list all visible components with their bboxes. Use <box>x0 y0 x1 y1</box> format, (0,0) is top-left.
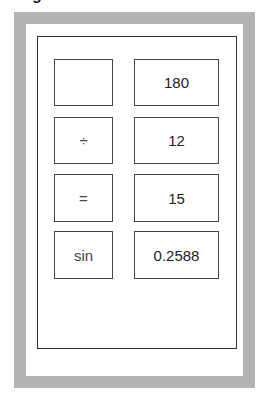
clipped-header-text: g <box>32 0 42 3</box>
value-cell-3[interactable]: 15 <box>134 174 219 222</box>
value-cell-2[interactable]: 12 <box>134 117 219 164</box>
operator-cell-sin[interactable]: sin <box>54 231 113 279</box>
value-cell-1[interactable]: 180 <box>134 59 219 106</box>
value-cell-4[interactable]: 0.2588 <box>134 231 219 279</box>
operator-cell-divide[interactable]: ÷ <box>54 117 113 164</box>
operator-cell-equals[interactable]: = <box>54 174 113 222</box>
operator-cell-1[interactable] <box>54 59 113 106</box>
